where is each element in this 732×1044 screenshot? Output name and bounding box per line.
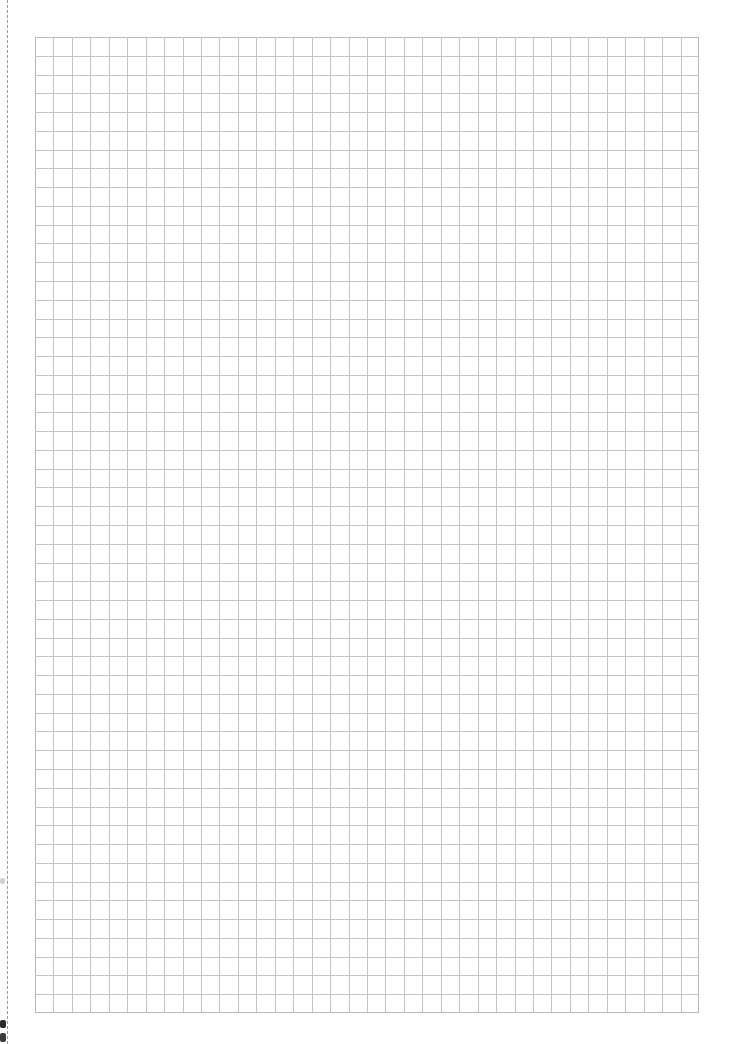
dashed-cut-line — [7, 0, 8, 1044]
edge-mark — [0, 1033, 6, 1042]
edge-mark — [0, 878, 5, 884]
grid-lines — [35, 37, 699, 1013]
graph-paper-grid — [35, 37, 699, 1013]
edge-mark — [0, 1020, 6, 1028]
